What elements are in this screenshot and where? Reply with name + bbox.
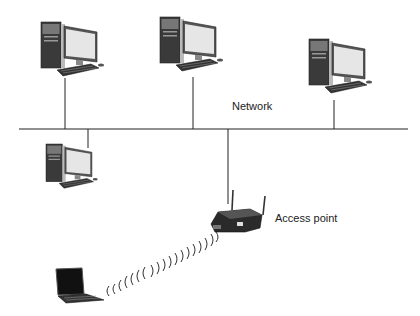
network-diagram: Network Access point — [0, 0, 420, 316]
network-label: Network — [232, 100, 272, 112]
access-point-label: Access point — [275, 212, 337, 224]
desktop-computer-icon — [41, 22, 104, 76]
desktop-computer-icon — [309, 39, 372, 93]
desktop-computer-icon — [160, 17, 223, 71]
laptop-computer-icon — [56, 268, 104, 303]
wireless-router-icon — [211, 190, 265, 232]
diagram-svg — [0, 0, 420, 316]
desktop-computer-icon — [46, 144, 98, 188]
wireless-signal-icon — [107, 232, 218, 296]
